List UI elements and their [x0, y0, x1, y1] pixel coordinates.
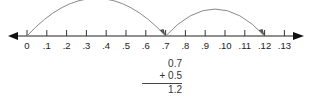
left-arrow-icon [8, 32, 18, 40]
tick-label: .2 [63, 40, 71, 51]
tick-label: .5 [122, 40, 130, 51]
addend-2: + 0.5 [146, 70, 182, 82]
tick-label: .1 [43, 40, 51, 51]
tick-label: .9 [201, 40, 209, 51]
jump-arrowhead-icon [259, 29, 265, 36]
tick-label: .3 [82, 40, 90, 51]
tick-label: .12 [258, 40, 271, 51]
addend-1: 0.7 [146, 58, 182, 70]
jump-arc [166, 9, 265, 36]
tick-label: .13 [278, 40, 291, 51]
tick-label: .7 [162, 40, 170, 51]
tick-label: .10 [218, 40, 231, 51]
tick-label: 0 [24, 40, 29, 51]
tick-label: .6 [142, 40, 150, 51]
jump-arc [27, 0, 166, 36]
tick-label: .11 [239, 40, 252, 51]
tick-label: .8 [181, 40, 189, 51]
jump-arrowhead-icon [160, 29, 166, 36]
sum: 1.2 [146, 84, 182, 96]
addition-problem: 0.7 + 0.5 1.2 [146, 58, 182, 96]
right-arrow-icon [293, 32, 304, 40]
tick-label: .4 [102, 40, 110, 51]
